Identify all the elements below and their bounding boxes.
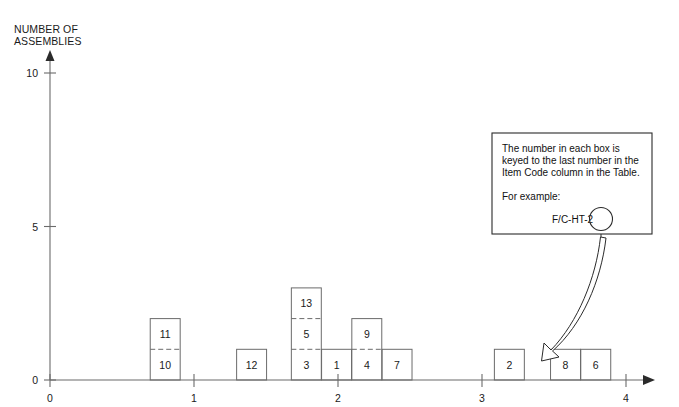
x-axis-ticks: 01234 — [47, 374, 629, 404]
histogram-bar: 6 — [581, 349, 611, 380]
figure-canvas: FIGURE 3. HISTOGRAM OF ASSEMBLIES NUMBER… — [0, 0, 679, 407]
bar-segment-label: 5 — [303, 328, 309, 340]
callout-example-code: F/C-HT-2 — [552, 214, 594, 225]
x-tick-label: 0 — [47, 392, 53, 404]
bar-segment-label: 4 — [364, 359, 370, 371]
callout-leader-group — [542, 226, 607, 361]
y-axis-arrowhead — [46, 50, 55, 61]
callout-box-group: The number in each box is keyed to the l… — [492, 133, 652, 234]
x-tick-label: 2 — [335, 392, 341, 404]
x-tick-label: 1 — [191, 392, 197, 404]
bar-segment-label: 7 — [394, 359, 400, 371]
bar-segment-label: 6 — [593, 359, 599, 371]
bar-segment-label: 2 — [506, 359, 512, 371]
bar-segment-label: 3 — [303, 359, 309, 371]
bar-segment-label: 9 — [364, 328, 370, 340]
bar-segment-label: 13 — [300, 297, 312, 309]
bar-segment-label: 1 — [334, 359, 340, 371]
callout-line1: The number in each box is — [502, 143, 620, 154]
bar-segment-label: 12 — [246, 359, 258, 371]
y-tick-label: 0 — [32, 374, 38, 386]
histogram-bar: 3513 — [291, 288, 321, 380]
histogram-plot: 0510 01234 10111235131497286 The number … — [0, 0, 679, 407]
y-axis-ticks: 0510 — [26, 67, 56, 386]
histogram-bar: 7 — [382, 349, 412, 380]
histogram-bar: 49 — [352, 319, 382, 380]
x-tick-label: 3 — [479, 392, 485, 404]
histogram-bar: 2 — [494, 349, 524, 380]
bar-segment-label: 11 — [160, 328, 171, 340]
bar-segment-label: 8 — [563, 359, 569, 371]
x-tick-label: 4 — [623, 392, 629, 404]
y-tick-label: 10 — [26, 67, 38, 79]
bars-group: 10111235131497286 — [150, 288, 611, 380]
x-axis-arrowhead — [643, 375, 655, 385]
callout-line4: For example: — [502, 191, 560, 202]
histogram-bar: 12 — [237, 349, 267, 380]
bar-segment-label: 10 — [159, 359, 171, 371]
callout-line2: keyed to the last number in the — [502, 155, 639, 166]
histogram-bar: 1 — [322, 349, 352, 380]
histogram-bar: 1011 — [150, 319, 180, 380]
callout-curved-arrow — [542, 237, 607, 361]
y-tick-label: 5 — [32, 221, 38, 233]
callout-line3: Item Code column in the Table. — [502, 167, 640, 178]
